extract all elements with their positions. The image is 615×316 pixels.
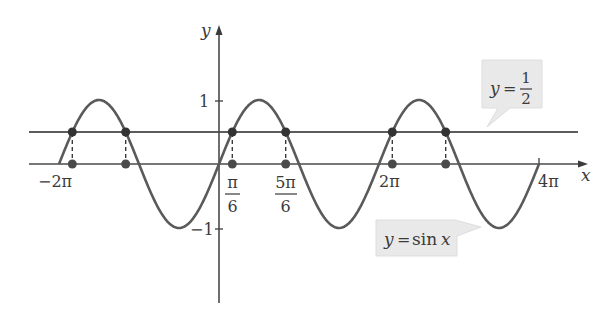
svg-text:6: 6 (227, 197, 237, 216)
x-tick-label-5pi-over-6: 5π 6 (275, 173, 297, 216)
y-tick-label-1: 1 (199, 92, 209, 111)
svg-text:=: = (503, 79, 516, 98)
svg-text:1: 1 (521, 69, 531, 87)
callout-sin: y = sin x (376, 220, 481, 256)
x-axis-label: x (581, 165, 591, 185)
svg-text:y: y (383, 229, 394, 249)
svg-text:=: = (397, 230, 410, 249)
x-tick-label-4pi: 4π (538, 172, 559, 191)
svg-text:sin: sin (412, 229, 437, 249)
y-tick-label-neg1: −1 (190, 220, 214, 239)
x-tick-label-pi-over-6: π 6 (225, 173, 240, 216)
svg-text:x: x (441, 229, 451, 249)
sine-chart: x y 1 −1 −2π 2π 4π π (0, 0, 615, 316)
svg-text:y: y (489, 78, 500, 98)
x-tick-label-neg2pi: −2π (38, 172, 72, 191)
y-axis-arrow-icon (216, 25, 223, 35)
y-axis-label: y (200, 20, 211, 40)
svg-text:π: π (227, 173, 238, 192)
svg-text:5π: 5π (275, 173, 296, 192)
callout-half: y = 1 2 (482, 60, 542, 127)
svg-text:6: 6 (280, 197, 290, 216)
svg-text:2: 2 (521, 90, 531, 108)
x-tick-label-2pi: 2π (379, 172, 400, 191)
